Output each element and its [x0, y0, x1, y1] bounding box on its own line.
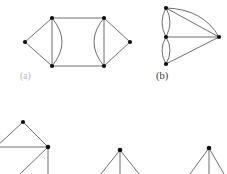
- vertex-c-top: [21, 120, 25, 124]
- graph-bottom-right-vertices: [207, 146, 212, 151]
- graph-bottom-middle-vertices: [118, 148, 123, 153]
- graph-bottom-left: [0, 120, 50, 174]
- edge-b-top-middle-left: [162, 8, 166, 37]
- graph-b-vertices: [164, 6, 221, 66]
- edge-a-bottomright-right: [104, 42, 130, 66]
- edge-b-top-middle-right: [166, 8, 170, 37]
- graph-b: [162, 6, 221, 66]
- edge-d-apex-right: [120, 150, 139, 174]
- vertex-a-left: [23, 40, 27, 44]
- edge-c-right-offleft-lower: [20, 147, 48, 174]
- graph-a-vertices: [23, 16, 132, 68]
- edge-c-top-right: [23, 122, 48, 147]
- graph-bottom-middle: [101, 148, 139, 174]
- edge-a-left-bottomleft: [25, 42, 52, 66]
- vertex-a-bottom-right: [102, 64, 106, 68]
- edge-a-left-topleft: [25, 18, 52, 42]
- caption-graph-b: (b): [156, 71, 168, 82]
- vertex-a-top-left: [50, 16, 54, 20]
- edge-a-topright-bottomright-curved: [94, 18, 104, 66]
- edge-c-top-offleft: [0, 122, 23, 147]
- vertex-b-bottom: [164, 62, 168, 66]
- vertex-b-right: [217, 35, 221, 39]
- vertex-b-middle: [164, 35, 168, 39]
- graph-bottom-middle-edges: [101, 150, 139, 174]
- edge-b-middle-bottom-left: [162, 37, 166, 64]
- edge-e-apex-right: [209, 148, 224, 174]
- vertex-c-right: [46, 145, 51, 150]
- edge-a-topleft-bottomleft-curved: [52, 18, 62, 66]
- graph-bottom-right: [190, 146, 224, 174]
- edge-b-middle-bottom-right: [166, 37, 170, 64]
- graph-a: [23, 16, 132, 68]
- graph-a-edges: [25, 18, 130, 66]
- vertex-a-bottom-left: [50, 64, 54, 68]
- vertex-a-top-right: [102, 16, 106, 20]
- graph-bottom-right-edges: [190, 148, 224, 174]
- graph-figure-canvas: [0, 0, 227, 174]
- edge-b-top-right-straight: [166, 8, 219, 37]
- edge-a-topright-right: [104, 18, 130, 42]
- edge-e-apex-left: [190, 148, 209, 174]
- graph-bottom-left-edges: [0, 122, 48, 174]
- edge-b-bottom-right: [166, 37, 219, 64]
- caption-graph-a: (a): [20, 72, 31, 82]
- vertex-d-apex: [118, 148, 123, 153]
- graph-b-edges: [162, 8, 219, 64]
- figure-container: (a) (b): [0, 0, 227, 174]
- edge-d-apex-left: [101, 150, 120, 174]
- vertex-a-right: [128, 40, 132, 44]
- vertex-b-top: [164, 6, 168, 10]
- vertex-e-apex: [207, 146, 212, 151]
